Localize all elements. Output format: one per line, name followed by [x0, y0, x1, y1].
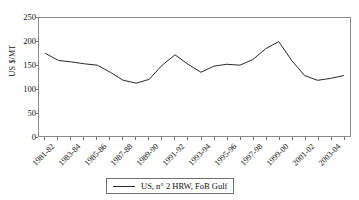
x-tick-label: 1995-96 — [213, 142, 239, 168]
x-tick-label: 1999-00 — [265, 142, 291, 168]
x-tick-label: 2001-02 — [291, 142, 317, 168]
x-tick-label: 1981-82 — [30, 142, 56, 168]
x-tick-label: 1989-90 — [135, 142, 161, 168]
x-tick-label: 1993-94 — [187, 142, 213, 168]
x-tick-label: 2003-04 — [317, 142, 343, 168]
chart-legend: US, n° 2 HRW, FoB Gulf — [106, 178, 234, 194]
x-tick-label: 1991-92 — [161, 142, 187, 168]
x-axis-tick-labels: 1981-821983-841985-861987-881989-901991-… — [0, 0, 359, 200]
x-tick-label: 1985-86 — [82, 142, 108, 168]
x-tick-label: 1983-84 — [56, 142, 82, 168]
legend-line-swatch — [113, 186, 135, 187]
chart-figure: US $/MT 250 200 150 100 50 0 1981-821983… — [0, 0, 359, 200]
legend-label-us-hrw: US, n° 2 HRW, FoB Gulf — [141, 181, 227, 191]
x-tick-label: 1997-98 — [239, 142, 265, 168]
x-tick-label: 1987-88 — [108, 142, 134, 168]
